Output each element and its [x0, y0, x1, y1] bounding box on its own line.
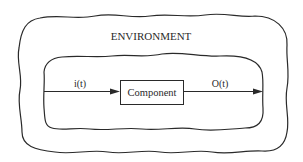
component-label: Component	[128, 87, 177, 98]
component-environment-diagram: ENVIRONMENT i(t) Component O(t)	[0, 0, 303, 162]
environment-label: ENVIRONMENT	[111, 30, 192, 42]
input-arrowhead-icon	[110, 89, 120, 95]
input-label: i(t)	[74, 78, 86, 90]
output-label: O(t)	[212, 78, 229, 90]
output-arrowhead-icon	[253, 89, 263, 95]
